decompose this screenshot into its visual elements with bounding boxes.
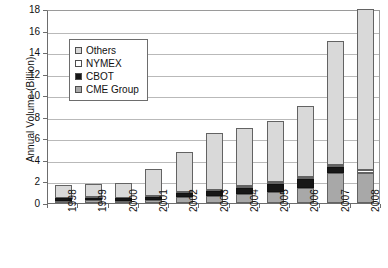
y-axis-tick-label: 4 (14, 156, 40, 166)
y-axis-tick-label: 18 (14, 5, 40, 15)
x-axis-tick-label: 1999 (97, 189, 108, 212)
x-axis-tick-mark (259, 204, 260, 208)
bar-segment-nymex[interactable] (236, 186, 253, 188)
legend-label: CBOT (86, 72, 114, 82)
x-axis-tick-label: 2001 (158, 189, 169, 212)
x-axis-tick-label: 2000 (128, 189, 139, 212)
x-axis-tick-mark (319, 204, 320, 208)
stacked-bar[interactable] (357, 11, 374, 203)
legend-entry: CME Group (75, 83, 139, 96)
x-axis-tick-label: 2002 (188, 189, 199, 212)
stacked-bar[interactable] (145, 11, 162, 203)
x-axis-tick-mark (77, 204, 78, 208)
x-axis-tick-mark (350, 204, 351, 208)
legend-swatch-cbot (75, 73, 82, 80)
legend-label: NYMEX (86, 59, 122, 69)
bar-group (176, 11, 193, 203)
bar-segment-others[interactable] (236, 128, 253, 186)
x-axis-tick-label: 2003 (219, 189, 230, 212)
bar-segment-nymex[interactable] (357, 170, 374, 173)
bar-group (145, 11, 162, 203)
stacked-bar-chart: Annual Volume (Billion) 024681012141618 … (0, 0, 388, 268)
x-axis-tick-label: 2008 (370, 189, 381, 212)
bar-segment-others[interactable] (267, 121, 284, 182)
bar-group (327, 11, 344, 203)
bar-segment-others[interactable] (327, 41, 344, 165)
bar-segment-nymex[interactable] (297, 177, 314, 179)
x-axis-tick-mark (380, 204, 381, 208)
bar-segment-nymex[interactable] (327, 165, 344, 167)
legend: OthersNYMEXCBOTCME Group (69, 39, 148, 101)
x-axis-tick-mark (229, 204, 230, 208)
x-axis-tick-mark (138, 204, 139, 208)
x-axis-tick-label: 2007 (340, 189, 351, 212)
legend-swatch-cme (75, 86, 82, 93)
legend-swatch-nymex (75, 60, 82, 67)
y-axis-tick-label: 10 (14, 91, 40, 101)
bar-segment-cbot[interactable] (297, 179, 314, 188)
x-axis-tick-label: 2005 (279, 189, 290, 212)
bar-segment-others[interactable] (297, 106, 314, 177)
legend-entry: Others (75, 44, 139, 57)
stacked-bar[interactable] (206, 11, 223, 203)
y-axis-tick-label: 14 (14, 48, 40, 58)
x-axis-tick-label: 1998 (67, 189, 78, 212)
x-axis-tick-label: 2006 (309, 189, 320, 212)
y-axis-tick-label: 6 (14, 134, 40, 144)
x-axis-tick-mark (108, 204, 109, 208)
bar-group (297, 11, 314, 203)
bar-group (267, 11, 284, 203)
x-axis-tick-mark (47, 204, 48, 208)
stacked-bar[interactable] (327, 11, 344, 203)
y-axis-tick-label: 12 (14, 70, 40, 80)
y-axis-tick-label: 8 (14, 113, 40, 123)
stacked-bar[interactable] (297, 11, 314, 203)
x-axis-tick-mark (168, 204, 169, 208)
x-axis-tick-mark (198, 204, 199, 208)
y-axis-tick-label: 2 (14, 177, 40, 187)
legend-label: CME Group (86, 85, 139, 95)
legend-entry: CBOT (75, 70, 139, 83)
bar-group (357, 11, 374, 203)
y-axis-tick-label: 0 (14, 199, 40, 209)
stacked-bar[interactable] (267, 11, 284, 203)
legend-swatch-others (75, 47, 82, 54)
bar-group (206, 11, 223, 203)
legend-label: Others (86, 46, 116, 56)
bar-segment-nymex[interactable] (267, 182, 284, 184)
bar-segment-others[interactable] (357, 9, 374, 170)
bar-segment-others[interactable] (176, 152, 193, 191)
bar-group (236, 11, 253, 203)
bar-segment-cbot[interactable] (327, 167, 344, 172)
bar-segment-others[interactable] (206, 133, 223, 190)
stacked-bar[interactable] (236, 11, 253, 203)
legend-entry: NYMEX (75, 57, 139, 70)
stacked-bar[interactable] (176, 11, 193, 203)
x-axis-tick-mark (289, 204, 290, 208)
x-axis-tick-label: 2004 (249, 189, 260, 212)
y-axis-tick-label: 16 (14, 27, 40, 37)
